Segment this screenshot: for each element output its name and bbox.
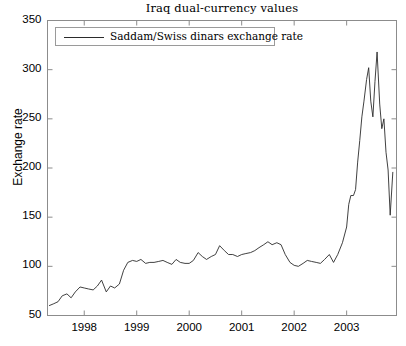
y-tick-label: 300 (2, 62, 42, 74)
x-tick-label: 2000 (164, 321, 214, 333)
series-line (49, 52, 393, 306)
legend-line-swatch (64, 37, 104, 38)
axes-frame (48, 21, 397, 316)
legend-label: Saddam/Swiss dinars exchange rate (110, 30, 303, 42)
y-tick-label: 250 (2, 111, 42, 123)
axis-ticks (48, 21, 397, 316)
x-tick-label: 2003 (322, 321, 372, 333)
y-tick-label: 150 (2, 209, 42, 221)
plot-area (0, 0, 406, 346)
x-tick-label: 2001 (217, 321, 267, 333)
y-tick-label: 100 (2, 258, 42, 270)
y-tick-label: 350 (2, 13, 42, 25)
data-series (49, 52, 393, 306)
chart-figure: Iraq dual-currency values Exchange rate … (0, 0, 406, 346)
chart-legend: Saddam/Swiss dinars exchange rate (55, 27, 275, 46)
y-tick-label: 50 (2, 308, 42, 320)
x-tick-label: 1998 (59, 321, 109, 333)
x-tick-label: 1999 (112, 321, 162, 333)
y-tick-label: 200 (2, 160, 42, 172)
axes-border (48, 21, 397, 316)
x-tick-label: 2002 (269, 321, 319, 333)
